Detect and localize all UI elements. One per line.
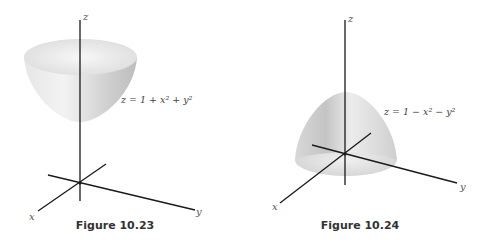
x-axis [38, 164, 106, 211]
figures-canvas: z y x z = 1 + x² + y² Figure 10.23 z y x… [0, 0, 490, 241]
origin-dot [343, 152, 346, 155]
equation-label: z = 1 − x² − y² [383, 106, 456, 117]
y-axis [48, 175, 195, 210]
x-axis-label: x [272, 201, 278, 212]
x-axis-label: x [29, 211, 35, 222]
figure-caption: Figure 10.24 [321, 219, 400, 232]
y-axis-label: y [195, 206, 202, 217]
figure-10-23: z y x z = 1 + x² + y² Figure 10.23 [24, 11, 202, 232]
origin-dot [78, 181, 81, 184]
figure-caption: Figure 10.23 [76, 219, 155, 232]
z-axis-label: z [82, 11, 89, 22]
z-axis-label: z [347, 13, 354, 24]
y-axis-label: y [459, 181, 466, 192]
equation-label: z = 1 + x² + y² [120, 94, 193, 105]
paraboloid-down-surface [295, 92, 397, 160]
figure-10-24: z y x z = 1 − x² − y² Figure 10.24 [272, 13, 466, 232]
